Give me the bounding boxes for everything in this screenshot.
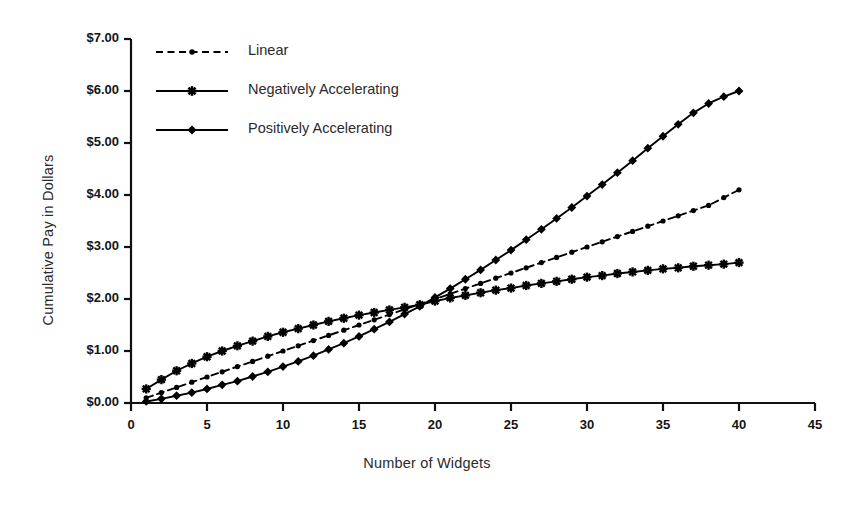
data-point-marker bbox=[187, 125, 196, 134]
chart-figure: Cumulative Pay in Dollars Number of Widg… bbox=[0, 0, 854, 505]
legend-swatch-positively-accelerating bbox=[156, 125, 228, 134]
legend-swatches bbox=[0, 0, 854, 505]
legend-swatch-negatively-accelerating bbox=[156, 86, 228, 96]
data-point-marker bbox=[187, 86, 197, 96]
legend-swatch-linear bbox=[156, 49, 228, 54]
data-point-marker bbox=[189, 49, 194, 54]
